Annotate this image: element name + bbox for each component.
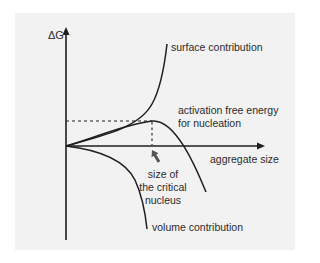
activation-energy-label-line2: for nucleation <box>178 117 241 130</box>
y-axis-label: ΔG <box>48 29 64 42</box>
critical-nucleus-label-line2: the critical <box>128 181 198 194</box>
surface-contribution-label: surface contribution <box>171 41 263 54</box>
activation-energy-label-line1: activation free energy <box>178 104 278 117</box>
critical-nucleus-label-line3: nucleus <box>128 194 198 207</box>
critical-nucleus-arrow-icon <box>149 148 163 164</box>
surface-contribution-curve <box>66 44 167 146</box>
x-axis-arrowhead-icon <box>257 143 265 150</box>
critical-nucleus-label-line1: size of <box>128 168 198 181</box>
volume-contribution-label: volume contribution <box>152 221 243 234</box>
x-axis-label: aggregate size <box>210 153 279 166</box>
